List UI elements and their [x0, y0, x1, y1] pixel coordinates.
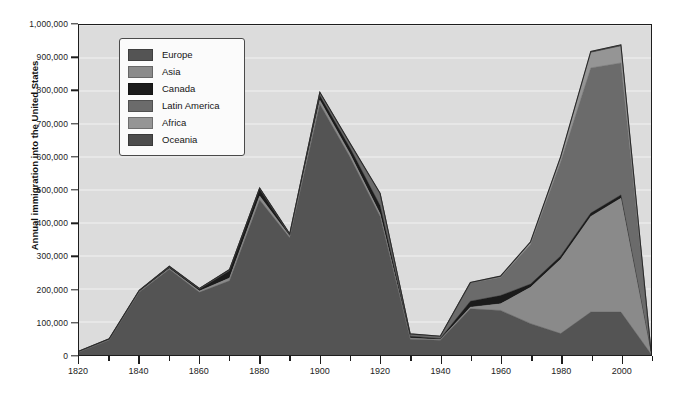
legend-swatch-icon	[128, 83, 153, 95]
x-tick-major	[561, 356, 562, 364]
legend-label: Asia	[162, 66, 180, 77]
x-tick-major	[501, 356, 502, 364]
x-axis: 1820184018601880190019201940196019802000	[78, 356, 652, 390]
y-tick-mark	[71, 90, 78, 91]
x-tick-label: 1940	[431, 366, 451, 376]
y-tick-label: 1,000,000	[29, 19, 68, 29]
legend-label: Africa	[162, 117, 186, 128]
y-tick-mark	[71, 23, 78, 24]
legend-swatch-icon	[128, 49, 153, 61]
y-tick-mark	[71, 222, 78, 223]
y-tick-mark	[71, 189, 78, 190]
y-tick-mark	[71, 289, 78, 290]
legend-label: Latin America	[162, 100, 220, 111]
x-tick-major	[441, 356, 442, 364]
x-tick-minor	[471, 356, 472, 361]
y-tick-label: 900,000	[37, 52, 68, 62]
x-tick-minor	[289, 356, 290, 361]
chart-figure: Annual immigration into the United State…	[0, 0, 680, 394]
x-tick-major	[380, 356, 381, 364]
legend-item[interactable]: Canada	[128, 80, 236, 97]
y-tick-label: 700,000	[37, 119, 68, 129]
legend-label: Canada	[162, 83, 195, 94]
x-tick-minor	[229, 356, 230, 361]
x-tick-label: 1820	[68, 366, 88, 376]
legend-swatch-icon	[128, 117, 153, 129]
legend-swatch-icon	[128, 100, 153, 112]
x-tick-major	[78, 356, 79, 364]
y-tick-label: 200,000	[37, 285, 68, 295]
legend-swatch-icon	[128, 134, 153, 146]
x-tick-major	[259, 356, 260, 364]
y-tick-mark	[71, 322, 78, 323]
y-tick-mark	[71, 123, 78, 124]
x-tick-minor	[592, 356, 593, 361]
x-tick-label: 1980	[551, 366, 571, 376]
legend: EuropeAsiaCanadaLatin AmericaAfricaOcean…	[119, 38, 245, 156]
x-tick-label: 1860	[189, 366, 209, 376]
x-tick-label: 1960	[491, 366, 511, 376]
x-tick-minor	[652, 356, 653, 361]
legend-label: Europe	[162, 49, 193, 60]
y-tick-label: 400,000	[37, 218, 68, 228]
y-tick-label: 300,000	[37, 251, 68, 261]
y-axis: Annual immigration into the United State…	[0, 0, 78, 380]
x-tick-label: 1920	[370, 366, 390, 376]
legend-label: Oceania	[162, 134, 197, 145]
y-tick-mark	[71, 156, 78, 157]
y-tick-mark	[71, 56, 78, 57]
legend-item[interactable]: Oceania	[128, 131, 236, 148]
y-tick-mark	[71, 256, 78, 257]
x-tick-major	[320, 356, 321, 364]
legend-item[interactable]: Latin America	[128, 97, 236, 114]
x-tick-minor	[169, 356, 170, 361]
x-tick-label: 1840	[128, 366, 148, 376]
y-tick-label: 500,000	[37, 185, 68, 195]
x-tick-label: 1900	[310, 366, 330, 376]
y-tick-label: 100,000	[37, 318, 68, 328]
y-tick-label: 800,000	[37, 85, 68, 95]
x-tick-major	[199, 356, 200, 364]
x-tick-label: 2000	[612, 366, 632, 376]
x-tick-minor	[350, 356, 351, 361]
y-tick-label: 600,000	[37, 152, 68, 162]
legend-swatch-icon	[128, 66, 153, 78]
legend-item[interactable]: Africa	[128, 114, 236, 131]
x-tick-minor	[531, 356, 532, 361]
y-tick-mark	[71, 355, 78, 356]
y-tick-label: 0	[63, 351, 68, 361]
x-tick-major	[622, 356, 623, 364]
x-tick-minor	[410, 356, 411, 361]
x-tick-major	[138, 356, 139, 364]
legend-item[interactable]: Asia	[128, 63, 236, 80]
legend-item[interactable]: Europe	[128, 46, 236, 63]
x-tick-minor	[108, 356, 109, 361]
x-tick-label: 1880	[249, 366, 269, 376]
